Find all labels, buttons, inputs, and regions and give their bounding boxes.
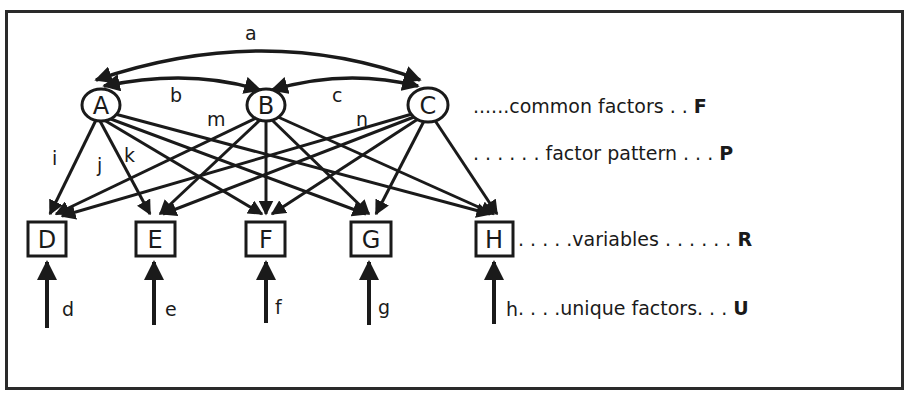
label-a: a: [245, 22, 257, 44]
factor-loadings: [50, 114, 497, 216]
legend-unique-text: . . . .unique factors. . .: [518, 297, 733, 319]
unique-factor-arrows: [47, 262, 494, 328]
variable-node-f: F: [246, 222, 285, 256]
variable-node-g: G: [351, 222, 391, 256]
factor-node-c: C: [408, 88, 448, 122]
label-i: i: [52, 147, 57, 169]
svg-text:G: G: [362, 226, 381, 254]
svg-text:E: E: [147, 226, 162, 254]
label-k: k: [124, 144, 135, 166]
label-g: g: [378, 296, 390, 318]
legend-variables: . . . . .variables . . . . . . R: [518, 229, 752, 249]
variable-nodes: D E F G H: [28, 222, 513, 256]
factor-node-a: A: [82, 89, 120, 121]
label-b: b: [170, 84, 182, 106]
legend-variables-symbol: R: [737, 228, 752, 250]
legend-variables-text: . . . . .variables . . . . . .: [518, 228, 737, 250]
svg-text:D: D: [38, 226, 56, 254]
legend-unique-factors: . . . .unique factors. . . U: [518, 298, 749, 318]
label-m: m: [207, 108, 226, 130]
label-j: j: [96, 154, 102, 176]
legend-common-factors: ......common factors . . F: [473, 96, 707, 116]
svg-text:F: F: [259, 226, 273, 254]
variable-node-h: H: [476, 222, 513, 256]
label-c: c: [332, 84, 342, 106]
edge-labels: a b c i j k m n d e f g h: [52, 22, 518, 320]
svg-text:C: C: [420, 92, 437, 120]
legend-common-symbol: F: [694, 95, 707, 117]
svg-text:A: A: [93, 92, 110, 120]
label-n: n: [356, 108, 368, 130]
label-d: d: [62, 298, 74, 320]
label-f: f: [275, 296, 283, 318]
label-e: e: [165, 298, 177, 320]
variable-node-e: E: [136, 222, 175, 256]
correlation-c-arc: [272, 78, 418, 90]
legend-factor-pattern: . . . . . . factor pattern . . . P: [473, 143, 733, 163]
factor-diagram: A B C D E F G H: [0, 0, 905, 396]
factor-correlations: [96, 51, 420, 90]
legend-unique-symbol: U: [733, 297, 748, 319]
common-factor-nodes: A B C: [82, 88, 448, 122]
factor-node-b: B: [247, 89, 285, 121]
legend-common-text: ......common factors . .: [473, 95, 694, 117]
legend-pattern-symbol: P: [719, 142, 733, 164]
correlation-a-arc: [96, 51, 420, 80]
svg-text:B: B: [258, 92, 274, 120]
variable-node-d: D: [28, 222, 66, 256]
legend-pattern-text: . . . . . . factor pattern . . .: [473, 142, 719, 164]
svg-text:H: H: [485, 226, 503, 254]
label-h: h: [506, 298, 518, 320]
